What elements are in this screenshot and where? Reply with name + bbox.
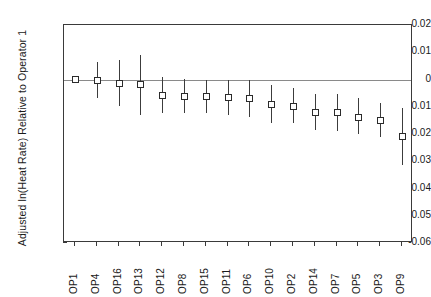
x-axis-tick-mark xyxy=(379,242,380,246)
x-axis-tick-mark xyxy=(96,242,97,246)
x-axis-tick-mark xyxy=(183,242,184,246)
data-point-marker xyxy=(355,114,362,121)
x-axis-tick-label: OP8 xyxy=(177,250,191,294)
x-axis-tick-label: OP5 xyxy=(351,250,365,294)
data-point-marker xyxy=(203,93,210,100)
x-axis-tick-mark xyxy=(336,242,337,246)
y-axis-label: Adjusted ln(Heat Rate) Relative to Opera… xyxy=(14,18,30,258)
x-axis-tick-label: OP14 xyxy=(308,250,322,294)
x-axis-tick-label: OP15 xyxy=(199,250,213,294)
x-axis-tick-label: OP13 xyxy=(133,250,147,294)
x-axis-tick-label: OP12 xyxy=(155,250,169,294)
x-axis-tick-label: OP1 xyxy=(68,250,82,294)
data-point-marker xyxy=(377,117,384,124)
x-axis-tick-mark xyxy=(139,242,140,246)
x-axis-tick-mark xyxy=(161,242,162,246)
y-axis-tick-mark xyxy=(63,242,67,243)
x-axis-tick-label: OP10 xyxy=(264,250,278,294)
data-point-marker xyxy=(268,101,275,108)
data-point-marker xyxy=(72,76,79,83)
data-point-marker xyxy=(334,109,341,116)
x-axis-tick-mark xyxy=(74,242,75,246)
x-axis-tick-label: OP11 xyxy=(221,250,235,294)
x-axis-tick-mark xyxy=(292,242,293,246)
x-axis-tick-mark xyxy=(401,242,402,246)
data-point-marker xyxy=(312,109,319,116)
data-point-marker xyxy=(399,133,406,140)
data-point-marker xyxy=(159,92,166,99)
data-point-marker xyxy=(181,93,188,100)
x-axis-tick-mark xyxy=(270,242,271,246)
x-axis-tick-label: OP16 xyxy=(112,250,126,294)
x-axis-tick-label: OP7 xyxy=(330,250,344,294)
data-point-marker xyxy=(246,95,253,102)
x-axis-tick-mark xyxy=(248,242,249,246)
x-axis-tick-label: OP3 xyxy=(373,250,387,294)
data-point-marker xyxy=(225,94,232,101)
x-axis-tick-label: OP4 xyxy=(90,250,104,294)
x-axis-tick-label: OP9 xyxy=(395,250,409,294)
data-point-marker xyxy=(137,81,144,88)
data-point-marker xyxy=(94,77,101,84)
x-axis-tick-mark xyxy=(205,242,206,246)
x-axis-tick-mark xyxy=(227,242,228,246)
x-axis-tick-mark xyxy=(314,242,315,246)
x-axis-tick-mark xyxy=(357,242,358,246)
data-point-marker xyxy=(116,80,123,87)
data-point-marker xyxy=(290,103,297,110)
chart-figure: Adjusted ln(Heat Rate) Relative to Opera… xyxy=(0,0,431,297)
x-axis-tick-mark xyxy=(118,242,119,246)
plot-area xyxy=(63,24,412,242)
x-axis-tick-label: OP6 xyxy=(242,250,256,294)
x-axis-tick-label: OP2 xyxy=(286,250,300,294)
